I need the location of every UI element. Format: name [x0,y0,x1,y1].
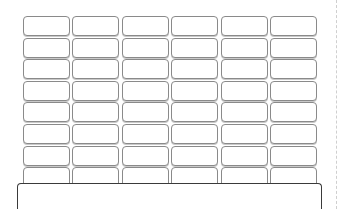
grid-cell[interactable] [23,59,70,79]
bottom-panel[interactable] [17,183,322,209]
grid-cell[interactable] [72,16,119,36]
grid-cell[interactable] [171,38,218,58]
grid-cell[interactable] [23,124,70,144]
grid-cell[interactable] [171,16,218,36]
grid-cell[interactable] [23,146,70,166]
grid-cell[interactable] [122,81,169,101]
grid-cell[interactable] [72,146,119,166]
grid-cell[interactable] [171,81,218,101]
grid-cell[interactable] [72,124,119,144]
dashed-divider [336,0,337,209]
grid-cell[interactable] [171,124,218,144]
grid-cell[interactable] [23,81,70,101]
grid-cell[interactable] [221,146,268,166]
grid-cell[interactable] [270,146,317,166]
grid-cell[interactable] [270,16,317,36]
grid-cell[interactable] [221,16,268,36]
grid-cell[interactable] [221,102,268,122]
tile-grid [23,16,317,187]
grid-cell[interactable] [23,102,70,122]
grid-cell[interactable] [122,124,169,144]
grid-cell[interactable] [122,59,169,79]
grid-cell[interactable] [270,124,317,144]
grid-cell[interactable] [72,102,119,122]
grid-cell[interactable] [72,59,119,79]
grid-cell[interactable] [221,124,268,144]
grid-cell[interactable] [270,81,317,101]
grid-cell[interactable] [122,38,169,58]
grid-cell[interactable] [72,38,119,58]
grid-cell[interactable] [270,102,317,122]
grid-cell[interactable] [23,16,70,36]
grid-cell[interactable] [171,102,218,122]
grid-cell[interactable] [171,59,218,79]
grid-cell[interactable] [270,59,317,79]
grid-cell[interactable] [122,16,169,36]
grid-cell[interactable] [122,102,169,122]
grid-cell[interactable] [171,146,218,166]
grid-cell[interactable] [122,146,169,166]
grid-cell[interactable] [221,38,268,58]
grid-cell[interactable] [72,81,119,101]
grid-cell[interactable] [221,59,268,79]
grid-cell[interactable] [23,38,70,58]
grid-cell[interactable] [221,81,268,101]
grid-cell[interactable] [270,38,317,58]
